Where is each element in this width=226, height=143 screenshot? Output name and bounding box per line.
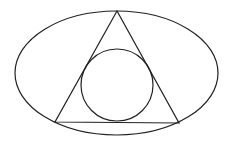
outer-ellipse — [15, 11, 218, 135]
inscribed-triangle — [55, 11, 179, 123]
inscribed-circle — [81, 49, 153, 121]
geometry-diagram — [0, 0, 226, 143]
